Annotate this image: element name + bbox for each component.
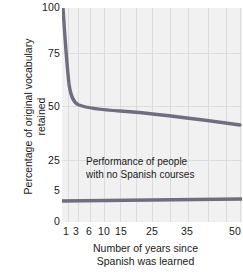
x-tick-label-10: 10 bbox=[98, 226, 110, 237]
x-tick-label-6: 6 bbox=[86, 226, 92, 237]
x-tick-label-50: 50 bbox=[229, 226, 241, 237]
series-paths bbox=[60, 8, 242, 222]
plot-area: Performance of people with no Spanish co… bbox=[60, 8, 242, 222]
x-tick-label-25: 25 bbox=[146, 226, 158, 237]
baseline-annotation-line2: with no Spanish courses bbox=[86, 169, 194, 182]
y-axis-title-line1: Percentage of original vocabulary bbox=[22, 39, 34, 195]
y-tick-label-100: 100 bbox=[26, 2, 60, 13]
y-axis-spine bbox=[60, 8, 62, 223]
x-tick-label-15: 15 bbox=[115, 226, 127, 237]
y-axis-title: Percentage of original vocabulary retain… bbox=[22, 22, 47, 212]
y-axis-title-line2: retained bbox=[34, 22, 47, 212]
y-tick-label-0: 0 bbox=[26, 216, 60, 227]
x-axis-title-line2: Spanish was learned bbox=[48, 255, 243, 268]
x-axis-title-line1: Number of years since bbox=[93, 242, 198, 254]
x-tick-label-1: 1 bbox=[63, 226, 69, 237]
x-tick-label-35: 35 bbox=[181, 226, 193, 237]
baseline-annotation: Performance of people with no Spanish co… bbox=[86, 156, 194, 181]
baseline-annotation-line1: Performance of people bbox=[86, 156, 187, 167]
x-tick-label-3: 3 bbox=[73, 226, 79, 237]
x-axis-title: Number of years since Spanish was learne… bbox=[48, 242, 243, 267]
retention-curve-path bbox=[63, 8, 240, 125]
retention-line-chart: Performance of people with no Spanish co… bbox=[0, 0, 243, 275]
no-courses-baseline-path bbox=[60, 199, 242, 201]
